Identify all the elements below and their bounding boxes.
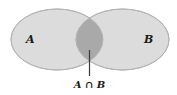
venn-diagram: A B A ∩ B <box>0 0 177 95</box>
set-a-label: A <box>25 33 35 46</box>
intersection-label: A ∩ B <box>73 79 106 90</box>
set-b-label: B <box>143 33 153 46</box>
